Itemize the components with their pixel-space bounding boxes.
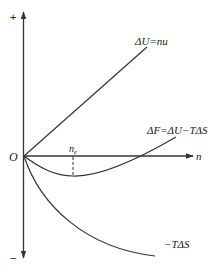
y-minus-label: − (10, 252, 16, 264)
delta-f-label: ΔF=ΔU−TΔS (146, 124, 208, 136)
minus-t-delta-s-label: −TΔS (164, 238, 190, 250)
delta-u-line (24, 47, 147, 156)
minimum-label: ne (69, 143, 77, 156)
delta-u-label: ΔU=nu (134, 35, 168, 47)
x-axis-label: n (196, 150, 202, 162)
minus-t-delta-s-curve (24, 156, 155, 256)
free-energy-diagram: + − O n ΔU=nu ΔF=ΔU−TΔS −TΔS ne (0, 0, 218, 274)
y-plus-label: + (10, 11, 16, 23)
origin-label: O (9, 150, 18, 164)
